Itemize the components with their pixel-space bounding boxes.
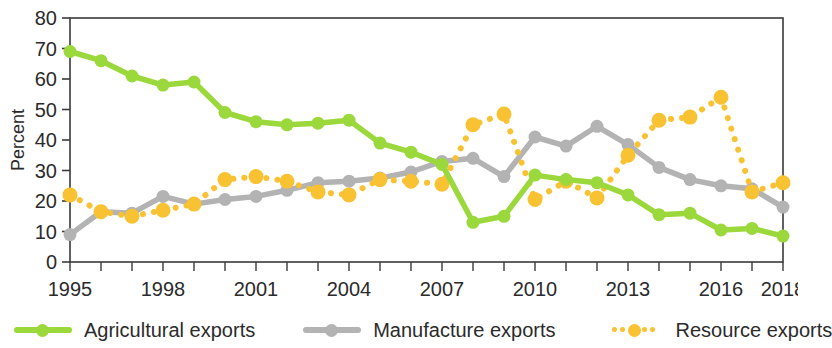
- data-point: [188, 76, 201, 89]
- data-point: [714, 90, 729, 105]
- data-point: [560, 140, 573, 153]
- data-point: [63, 187, 78, 202]
- data-point: [529, 131, 542, 144]
- data-point: [653, 161, 666, 174]
- data-point: [684, 173, 697, 186]
- legend-swatch-icon: [303, 321, 361, 339]
- data-point: [776, 175, 791, 190]
- data-point: [157, 79, 170, 92]
- y-axis-tick-label: 20: [35, 190, 57, 212]
- y-axis-title: Percent: [8, 109, 28, 171]
- data-point: [126, 70, 139, 83]
- legend-label: Agricultural exports: [84, 320, 255, 340]
- data-point: [777, 201, 790, 214]
- data-point: [374, 137, 387, 150]
- data-point: [622, 188, 635, 201]
- data-point: [621, 148, 636, 163]
- legend-item-resource-exports[interactable]: Resource exports: [606, 320, 832, 340]
- data-point: [497, 107, 512, 122]
- x-axis-tick-label: 2004: [327, 278, 372, 300]
- data-point: [746, 222, 759, 235]
- data-point: [683, 110, 698, 125]
- y-axis-tick-label: 60: [35, 68, 57, 90]
- legend-marker-dot: [325, 324, 338, 337]
- data-point: [652, 113, 667, 128]
- data-point: [498, 210, 511, 223]
- data-point: [218, 172, 233, 187]
- y-axis-tick-label: 10: [35, 221, 57, 243]
- x-axis-tick-label: 2007: [420, 278, 465, 300]
- y-axis-tick-label: 40: [35, 129, 57, 151]
- data-point: [715, 224, 728, 237]
- x-axis-tick-label: 1998: [141, 278, 186, 300]
- data-point: [343, 114, 356, 127]
- data-point: [715, 179, 728, 192]
- data-point: [745, 184, 760, 199]
- data-point: [219, 106, 232, 119]
- x-axis-tick-label: 2018: [761, 278, 798, 300]
- data-point: [64, 228, 77, 241]
- plot-frame: [70, 18, 783, 262]
- data-point: [250, 115, 263, 128]
- legend-swatch-icon: [606, 321, 664, 339]
- data-point: [590, 190, 605, 205]
- data-point: [342, 187, 357, 202]
- data-point: [684, 207, 697, 220]
- legend-dot-segment: [612, 327, 617, 332]
- data-point: [777, 230, 790, 243]
- y-axis-tick-label: 30: [35, 160, 57, 182]
- data-point: [591, 120, 604, 133]
- data-point: [373, 172, 388, 187]
- data-point: [250, 190, 263, 203]
- data-point: [219, 193, 232, 206]
- data-point: [156, 203, 171, 218]
- data-point: [404, 174, 419, 189]
- legend-marker-dot: [36, 324, 49, 337]
- y-axis-tick-label: 50: [35, 99, 57, 121]
- legend-marker-dot: [628, 324, 641, 337]
- x-axis-tick-label: 2010: [513, 278, 558, 300]
- legend-dot-segment: [650, 327, 655, 332]
- data-point: [311, 184, 326, 199]
- data-point: [125, 209, 140, 224]
- data-point: [280, 174, 295, 189]
- data-point: [343, 175, 356, 188]
- data-point: [498, 170, 511, 183]
- data-point: [281, 118, 294, 131]
- y-axis-tick-label: 70: [35, 38, 57, 60]
- data-point: [653, 208, 666, 221]
- data-point: [157, 190, 170, 203]
- x-axis-tick-label: 2001: [234, 278, 279, 300]
- x-axis-tick-label: 2016: [699, 278, 744, 300]
- x-axis-tick-label: 1995: [48, 278, 93, 300]
- data-point: [466, 117, 481, 132]
- x-axis-tick-label: 2013: [606, 278, 651, 300]
- y-axis-tick-label: 80: [35, 7, 57, 29]
- data-point: [187, 197, 202, 212]
- series-agricultural-exports: [64, 45, 790, 243]
- legend-dot-segment: [620, 327, 625, 332]
- data-point: [249, 169, 264, 184]
- data-point: [312, 117, 325, 130]
- y-axis-tick-label: 0: [46, 251, 57, 273]
- legend-dot-segment: [642, 327, 647, 332]
- chart-plot-area: 01020304050607080Percent1995199820012004…: [0, 0, 798, 312]
- data-point: [529, 169, 542, 182]
- data-point: [528, 192, 543, 207]
- chart-legend: Agricultural exportsManufacture exportsR…: [0, 312, 798, 348]
- legend-label: Manufacture exports: [373, 320, 555, 340]
- data-point: [95, 54, 108, 67]
- legend-item-agricultural-exports[interactable]: Agricultural exports: [14, 320, 255, 340]
- data-point: [560, 173, 573, 186]
- legend-item-manufacture-exports[interactable]: Manufacture exports: [303, 320, 555, 340]
- legend-label: Resource exports: [676, 320, 832, 340]
- data-point: [467, 152, 480, 165]
- data-point: [405, 146, 418, 159]
- data-point: [64, 45, 77, 58]
- legend-swatch-icon: [14, 321, 72, 339]
- data-point: [436, 158, 449, 171]
- data-point: [94, 204, 109, 219]
- data-point: [467, 216, 480, 229]
- data-point: [591, 176, 604, 189]
